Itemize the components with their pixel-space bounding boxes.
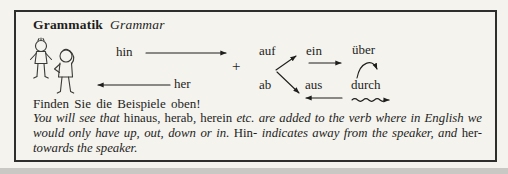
durch-label: durch [351, 78, 381, 91]
hin-label: hin [116, 45, 133, 58]
instruction-line: Finden Sie die Beispiele oben! [33, 96, 201, 112]
title-german: Grammatik [33, 17, 103, 32]
scanned-textbook-page: GrammatikGrammar hin her + auf ein über … [0, 0, 508, 174]
page-edge-shadow [0, 168, 508, 174]
explanation-paragraph: You will see that hinaus, herab, herein … [33, 111, 482, 157]
ueber-label: über [352, 43, 375, 56]
her-label: her [174, 77, 191, 90]
explanation-line: would only have up, out, down or in. Hin… [33, 126, 482, 141]
ein-label: ein [306, 44, 322, 57]
title-english: Grammar [110, 17, 165, 32]
explanation-line: towards the speaker. [33, 141, 482, 156]
ab-label: ab [259, 78, 271, 91]
auf-label: auf [259, 44, 276, 57]
plus-sign: + [232, 59, 240, 74]
aus-label: aus [305, 78, 322, 91]
section-title: GrammatikGrammar [33, 17, 165, 33]
explanation-line: You will see that hinaus, herab, herein … [33, 111, 482, 126]
